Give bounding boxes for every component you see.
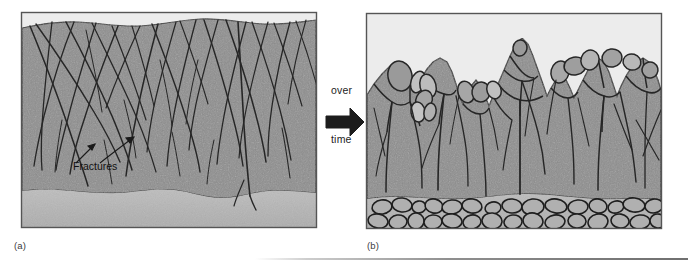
panel-a-caption: (a) [14, 240, 26, 251]
transition-label-time: time [331, 133, 352, 145]
transition-label-over: over [331, 84, 352, 96]
regolith-layer-a [22, 189, 316, 227]
bottom-divider-rule [255, 258, 688, 260]
panel-b [367, 14, 668, 232]
panel-b-caption: (b) [367, 240, 379, 251]
right-arrow-icon [326, 108, 364, 136]
panel-a: Fractures [22, 13, 321, 228]
fractures-label: Fractures [73, 160, 117, 172]
transition-arrow [326, 108, 364, 136]
